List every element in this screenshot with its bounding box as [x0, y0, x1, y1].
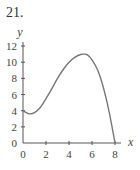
y-tick-label: 10: [6, 56, 18, 68]
y-tick-label: 8: [12, 72, 18, 84]
y-tick-label: 6: [12, 89, 18, 101]
x-tick-label: 6: [89, 148, 95, 160]
y-axis-label: y: [16, 25, 23, 39]
x-tick-label: 8: [112, 148, 118, 160]
data-curve: [23, 54, 115, 143]
y-tick-label: 12: [6, 40, 17, 52]
x-tick-label: 2: [43, 148, 49, 160]
y-tick-label: 0: [12, 137, 18, 149]
y-tick-label: 2: [12, 121, 18, 133]
x-tick-label: 4: [66, 148, 72, 160]
y-tick-label: 4: [12, 105, 18, 117]
x-axis-label: x: [127, 135, 134, 149]
line-chart: 02468024681012xy: [0, 0, 140, 170]
x-tick-label: 0: [20, 148, 26, 160]
